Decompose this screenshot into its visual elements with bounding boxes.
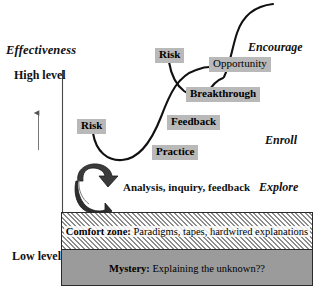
zone-mystery-text: Mystery: Explaining the unknown??	[62, 263, 312, 274]
zone-mystery-lead: Mystery:	[109, 263, 150, 274]
zone-comfort-rest: Paradigms, tapes, hardwired explanations	[131, 226, 308, 237]
curve-label-opportunity: Opportunity	[209, 57, 271, 72]
zone-comfort: Comfort zone: Paradigms, tapes, hardwire…	[61, 212, 313, 250]
stage-word-enroll: Enroll	[265, 134, 297, 146]
curve-label-breakthrough: Breakthrough	[186, 87, 260, 102]
axis-label-low-level: Low level	[12, 250, 61, 262]
zone-comfort-lead: Comfort zone:	[66, 226, 131, 237]
diagram-canvas: Effectiveness High level Low level Encou…	[0, 0, 323, 294]
curve-label-risk-upper: Risk	[155, 48, 184, 63]
annotation-analysis: Analysis, inquiry, feedback	[123, 182, 250, 193]
axis-label-effectiveness: Effectiveness	[6, 44, 76, 57]
axis-label-high-level: High level	[14, 69, 66, 81]
zone-mystery: Mystery: Explaining the unknown??	[61, 249, 313, 286]
stage-word-encourage: Encourage	[248, 41, 303, 53]
curve-label-practice: Practice	[152, 145, 198, 160]
cycle-spiral-arrow	[75, 164, 118, 217]
zone-comfort-text: Comfort zone: Paradigms, tapes, hardwire…	[62, 226, 312, 237]
stage-word-explore: Explore	[259, 181, 298, 193]
curve-label-risk-lower: Risk	[77, 119, 106, 134]
zone-mystery-rest: Explaining the unknown??	[150, 263, 265, 274]
curve-label-feedback: Feedback	[167, 115, 220, 130]
